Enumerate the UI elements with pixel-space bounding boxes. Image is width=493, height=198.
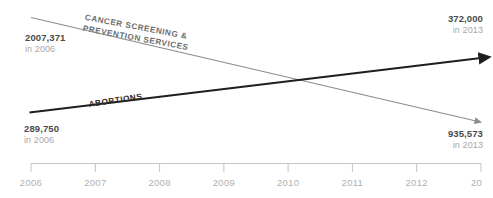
axis-label-2009: 2009 — [213, 177, 235, 188]
abortions-end-value: 372,000 — [448, 14, 483, 25]
chart-canvas — [0, 0, 493, 198]
abortions-end-label: 372,000 in 2013 — [448, 14, 483, 35]
axis-label-2011: 2011 — [342, 177, 364, 188]
axis-label-2012: 2012 — [406, 177, 428, 188]
cancer-screening-start-value: 2007,371 — [25, 33, 65, 44]
axis-label-2007: 2007 — [84, 177, 106, 188]
axis-label-2010: 2010 — [277, 177, 299, 188]
x-axis — [31, 164, 481, 173]
cancer-screening-end-value: 935,573 — [448, 129, 483, 140]
abortions-start-year: in 2006 — [24, 135, 59, 145]
cancer-screening-start-label: 2007,371 in 2006 — [25, 33, 65, 54]
cancer-screening-end-year: in 2013 — [448, 140, 483, 150]
abortions-end-year: in 2013 — [448, 25, 483, 35]
axis-label-2006: 2006 — [20, 177, 42, 188]
cancer-screening-end-label: 935,573 in 2013 — [448, 129, 483, 150]
axis-ticks — [31, 164, 481, 173]
axis-label-2008: 2008 — [148, 177, 170, 188]
cancer-screening-start-year: in 2006 — [25, 44, 65, 54]
axis-label-2013-clipped: 20 — [471, 177, 482, 188]
abortions-start-value: 289,750 — [24, 124, 59, 135]
abortions-start-label: 289,750 in 2006 — [24, 124, 59, 145]
crossing-lines-chart: 2007,371 in 2006 935,573 in 2013 289,750… — [0, 0, 493, 198]
